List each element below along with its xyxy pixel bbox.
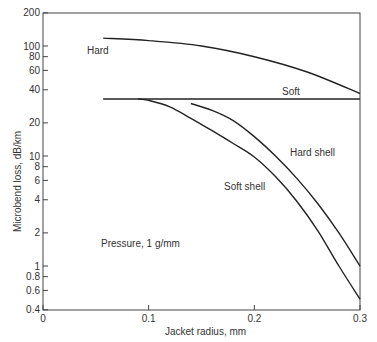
y-tick-label: 6: [34, 175, 40, 186]
x-axis-label: Jacket radius, mm: [165, 326, 246, 337]
pressure-annotation: Pressure, 1 g/mm: [101, 238, 180, 249]
y-tick-label: 200: [23, 7, 40, 18]
x-tick-label: 0.3: [353, 313, 367, 324]
y-tick-label: 4: [34, 194, 40, 205]
y-tick-label: 40: [29, 84, 41, 95]
x-tick-label: 0.2: [247, 313, 261, 324]
y-tick-label: 60: [29, 65, 41, 76]
plot-frame: [43, 13, 360, 310]
series-line-hard: [103, 38, 360, 93]
y-axis-label: Microbend loss, dB/km: [12, 131, 23, 232]
x-tick-label: 0: [40, 313, 46, 324]
series-line-hard-shell: [191, 104, 360, 267]
series-line-soft-shell: [138, 99, 360, 299]
y-tick-label: 80: [29, 51, 41, 62]
y-axis-ticks: 2001008060402010864210.80.60.4: [23, 7, 48, 315]
y-tick-label: 0.8: [26, 271, 40, 282]
y-tick-label: 0.6: [26, 285, 40, 296]
series-label-soft: Soft: [282, 86, 300, 97]
y-tick-label: 1: [34, 261, 40, 272]
microbend-loss-chart: 2001008060402010864210.80.60.4 00.10.20.…: [0, 0, 377, 342]
y-tick-label: 0.4: [26, 304, 40, 315]
series-label-hard-shell: Hard shell: [290, 147, 335, 158]
series-label-hard: Hard: [87, 45, 109, 56]
x-axis-ticks: 00.10.20.3: [40, 305, 367, 324]
y-tick-label: 10: [29, 151, 41, 162]
x-tick-label: 0.1: [142, 313, 156, 324]
series-label-soft-shell: Soft shell: [224, 181, 265, 192]
y-tick-label: 2: [34, 227, 40, 238]
y-tick-label: 20: [29, 117, 41, 128]
y-tick-label: 100: [23, 41, 40, 52]
y-tick-label: 8: [34, 161, 40, 172]
data-series: [103, 38, 360, 299]
